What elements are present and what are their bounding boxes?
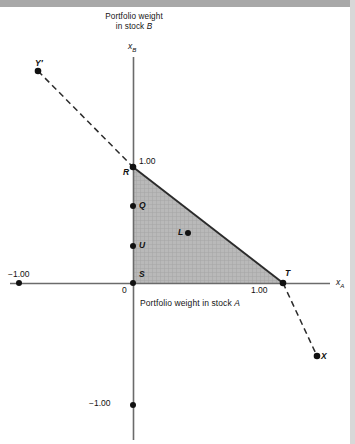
point-label-Y-prime: Y′ — [35, 58, 43, 68]
point-dot-Y-prime — [35, 68, 42, 75]
y-axis-symbol-subscript: B — [132, 46, 136, 53]
y-axis-symbol: xB — [128, 41, 136, 53]
portfolio-weight-figure: Portfolio weight in stock B xB xA Portfo… — [0, 0, 355, 444]
x-axis-symbol-subscript: A — [340, 282, 344, 289]
tick-label-x-positive: 1.00 — [251, 285, 268, 295]
point-dot-L — [185, 230, 191, 236]
point-dot-T — [280, 280, 287, 287]
point-label-U: U — [139, 240, 145, 250]
dashed-line-lower-right — [283, 283, 317, 356]
origin-label: 0 — [122, 285, 127, 295]
x-axis-symbol: xA — [336, 277, 344, 289]
tick-label-y-negative: −1.00 — [89, 398, 111, 408]
figure-title-top: Portfolio weight in stock B — [88, 12, 180, 33]
point-label-L: L — [178, 227, 183, 237]
figure-svg — [0, 0, 355, 444]
point-label-X: X — [321, 351, 327, 361]
dashed-line-upper-left — [38, 71, 133, 167]
figure-title-line1: Portfolio weight — [105, 12, 163, 21]
figure-title-line2-static: in stock B — [116, 22, 153, 31]
stock-a-italic: A — [234, 298, 240, 308]
tick-dot-y-negative — [130, 402, 136, 408]
point-label-Q: Q — [139, 200, 146, 210]
point-label-S: S — [139, 269, 145, 279]
tick-dot-x-negative — [16, 280, 22, 286]
point-label-R: R — [123, 167, 129, 177]
tick-label-y-positive: 1.00 — [139, 156, 156, 166]
point-dot-U — [130, 243, 136, 249]
point-dot-S — [130, 280, 136, 286]
tick-label-x-negative: −1.00 — [8, 269, 30, 279]
point-label-T: T — [285, 268, 290, 278]
point-dot-R — [130, 164, 137, 171]
figure-caption-bottom: Portfolio weight in stock A — [140, 298, 240, 309]
point-dot-Q — [130, 203, 136, 209]
stock-b-italic: B — [147, 22, 153, 31]
point-dot-X — [314, 353, 321, 360]
